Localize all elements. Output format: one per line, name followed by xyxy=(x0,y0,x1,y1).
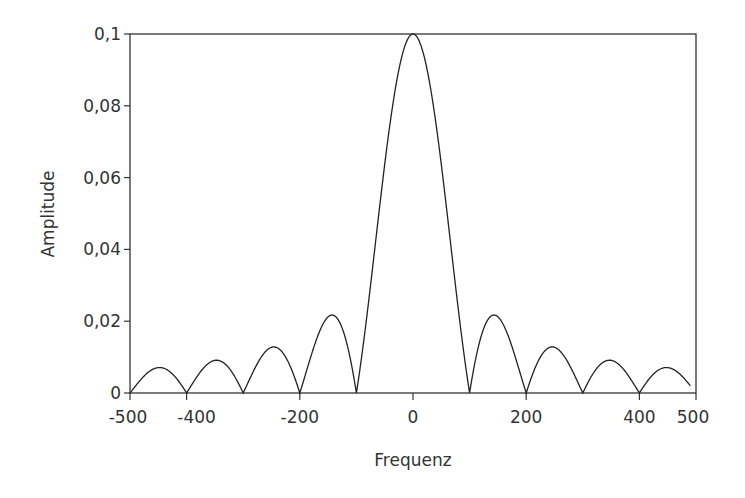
y-axis: 00,020,040,060,080,1 xyxy=(83,24,130,403)
y-axis-title: Amplitude xyxy=(38,170,58,257)
x-axis-title: Frequenz xyxy=(374,450,451,470)
y-tick-label: 0,08 xyxy=(83,96,121,116)
x-tick-label: 400 xyxy=(623,407,655,427)
y-tick-label: 0,02 xyxy=(83,311,121,331)
y-tick-label: 0,06 xyxy=(83,168,121,188)
x-tick-label: 500 xyxy=(677,407,709,427)
y-tick-label: 0,04 xyxy=(83,239,121,259)
plot-frame xyxy=(130,34,696,393)
x-tick-label: 0 xyxy=(408,407,419,427)
amplitude-curve xyxy=(130,34,690,393)
x-tick-label: -400 xyxy=(177,407,216,427)
x-tick-label: -500 xyxy=(109,407,148,427)
y-tick-label: 0 xyxy=(110,383,121,403)
amplitude-spectrum-chart: 00,020,040,060,080,1 -500-400-2000200400… xyxy=(0,0,745,498)
y-tick-label: 0,1 xyxy=(94,24,121,44)
x-tick-label: 200 xyxy=(510,407,542,427)
x-tick-label: -200 xyxy=(281,407,320,427)
x-axis: -500-400-2000200400500 xyxy=(109,393,710,427)
